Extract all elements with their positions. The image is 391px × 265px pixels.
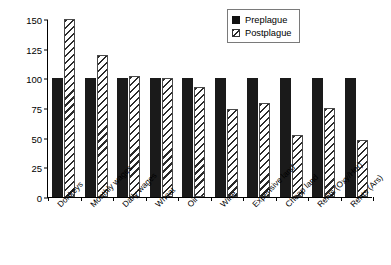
y-axis-tick-mark (44, 138, 48, 139)
bar-group (312, 20, 336, 197)
y-axis-tick-label: 100 (2, 74, 48, 85)
bar-chart: Preplague Postplague 0255075100125150 Do… (0, 0, 391, 265)
x-axis-tick-mark (211, 197, 212, 201)
bar-group (247, 20, 271, 197)
x-axis-tick-mark (48, 197, 49, 201)
y-axis-tick-mark (44, 79, 48, 80)
y-axis-tick-mark (44, 168, 48, 169)
bar-preplague (215, 78, 226, 197)
bar-postplague (64, 19, 75, 197)
bar-group (85, 20, 109, 197)
y-axis-tick-label: 0 (2, 193, 48, 204)
y-axis-tick-label: 75 (2, 104, 48, 115)
bar-preplague (182, 78, 193, 197)
bar-group (215, 20, 239, 197)
x-axis-tick-mark (113, 197, 114, 201)
x-axis-tick-mark (341, 197, 342, 201)
y-axis-tick-label: 150 (2, 15, 48, 26)
bar-postplague (162, 78, 173, 197)
bar-postplague (129, 76, 140, 197)
bar-postplague (194, 87, 205, 197)
x-axis-tick-mark (81, 197, 82, 201)
plot-area: 0255075100125150 (47, 20, 372, 198)
y-axis-tick-mark (44, 49, 48, 50)
bar-group (52, 20, 76, 197)
x-axis-tick-mark (373, 197, 374, 201)
y-axis-tick-label: 50 (2, 133, 48, 144)
bar-group (182, 20, 206, 197)
bar-postplague (97, 55, 108, 197)
x-axis-tick-mark (308, 197, 309, 201)
bar-preplague (85, 78, 96, 197)
bar-preplague (247, 78, 258, 197)
y-axis-tick-mark (44, 20, 48, 21)
x-axis-tick-mark (178, 197, 179, 201)
x-axis-tick-mark (276, 197, 277, 201)
y-axis-tick-label: 125 (2, 44, 48, 55)
bar-postplague (227, 109, 238, 197)
bar-group (150, 20, 174, 197)
bar-preplague (52, 78, 63, 197)
y-axis-tick-mark (44, 109, 48, 110)
x-axis-tick-mark (146, 197, 147, 201)
y-axis-tick-label: 25 (2, 163, 48, 174)
x-axis-tick-mark (243, 197, 244, 201)
